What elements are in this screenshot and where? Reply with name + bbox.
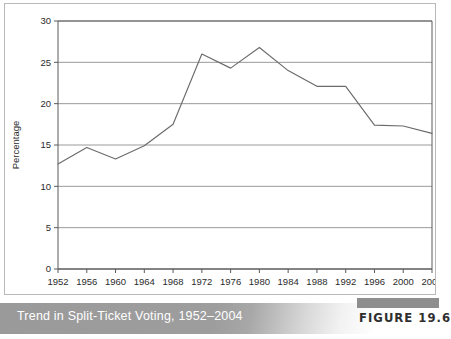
y-tick-label-20: 20 [40, 98, 51, 109]
x-tick-label-1980: 1980 [249, 276, 270, 287]
x-tick-label-1960: 1960 [105, 276, 126, 287]
data-series-split-ticket-voting [58, 47, 432, 164]
x-tick-label-1972: 1972 [191, 276, 212, 287]
x-tick-label-2000: 2000 [393, 276, 414, 287]
x-tick-label-1976: 1976 [220, 276, 241, 287]
chart-panel: 0510152025301952195619601964196819721976… [4, 3, 436, 295]
y-tick-label-10: 10 [40, 181, 51, 192]
line-chart: 0510152025301952195619601964196819721976… [5, 4, 435, 294]
x-tick-label-1964: 1964 [134, 276, 155, 287]
x-tick-label-1984: 1984 [278, 276, 299, 287]
x-tick-label-1992: 1992 [335, 276, 356, 287]
x-tick-label-1988: 1988 [306, 276, 327, 287]
figure-caption: Trend in Split-Ticket Voting, 1952–2004 [17, 309, 243, 323]
x-tick-label-1996: 1996 [364, 276, 385, 287]
y-axis-title: Percentage [10, 121, 21, 170]
figure-number-tab [357, 298, 439, 308]
x-tick-label-1952: 1952 [47, 276, 68, 287]
y-tick-label-25: 25 [40, 57, 51, 68]
y-tick-label-30: 30 [40, 15, 51, 26]
x-tick-label-2004: 2004 [421, 276, 435, 287]
y-tick-label-0: 0 [46, 263, 51, 274]
x-tick-label-1956: 1956 [76, 276, 97, 287]
figure-number-label: FIGURE 19.6 [359, 310, 451, 325]
y-tick-label-15: 15 [40, 139, 51, 150]
x-axis-title: Year [235, 293, 254, 294]
x-tick-label-1968: 1968 [163, 276, 184, 287]
y-tick-label-5: 5 [46, 222, 51, 233]
